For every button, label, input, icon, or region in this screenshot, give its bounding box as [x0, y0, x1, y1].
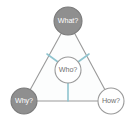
node-what-label: What?: [58, 16, 78, 25]
diagram-canvas: What? Why? How? Who?: [0, 0, 135, 126]
node-who-label: Who?: [59, 65, 77, 74]
node-how[interactable]: How?: [98, 88, 124, 114]
node-why[interactable]: Why?: [11, 88, 37, 114]
node-why-label: Why?: [15, 96, 33, 105]
node-who[interactable]: Who?: [55, 57, 81, 83]
node-what[interactable]: What?: [54, 7, 82, 35]
triangle-question-diagram: What? Why? How? Who?: [0, 0, 135, 126]
node-how-label: How?: [102, 96, 120, 105]
